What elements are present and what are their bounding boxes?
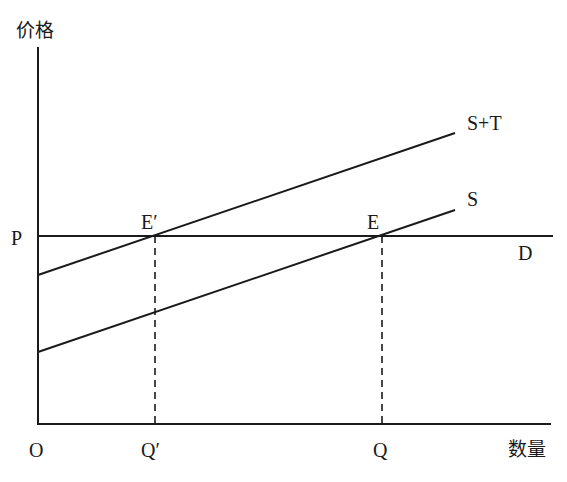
curve-label-d: D — [518, 243, 532, 263]
curve-label-s-plus-t: S+T — [467, 113, 502, 133]
price-label-p: P — [11, 228, 22, 248]
y-axis-label: 价格 — [16, 21, 54, 40]
diagram-canvas — [0, 0, 567, 482]
quantity-label-q-prime: Q′ — [141, 440, 160, 460]
curve-label-s: S — [467, 189, 478, 209]
point-label-e: E — [367, 212, 379, 232]
supply-curve-s-plus-t — [38, 133, 455, 275]
origin-label: O — [29, 440, 43, 460]
x-axis-label: 数量 — [508, 440, 546, 459]
quantity-label-q: Q — [373, 440, 387, 460]
point-label-e-prime: E′ — [141, 212, 158, 232]
supply-curve-s — [38, 210, 455, 352]
